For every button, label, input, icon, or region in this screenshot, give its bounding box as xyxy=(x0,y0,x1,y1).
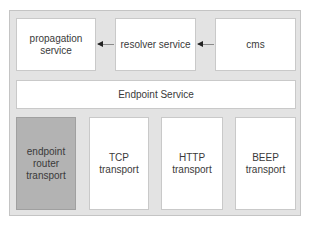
http-transport-box: HTTP transport xyxy=(161,117,223,210)
beep-transport-label: BEEP transport xyxy=(246,152,285,176)
propagation-service-box: propagation service xyxy=(16,18,96,71)
http-transport-label: HTTP transport xyxy=(172,152,211,176)
arrowhead-icon xyxy=(197,41,203,47)
arrow-resolver-to-propagation xyxy=(98,44,114,45)
resolver-service-box: resolver service xyxy=(115,18,196,71)
endpoint-router-transport-box: endpoint router transport xyxy=(16,117,76,210)
arrow-cms-to-resolver xyxy=(198,44,214,45)
arrowhead-icon xyxy=(97,41,103,47)
tcp-transport-box: TCP transport xyxy=(89,117,149,210)
endpoint-service-box: Endpoint Service xyxy=(16,80,296,109)
propagation-service-label: propagation service xyxy=(30,33,83,57)
endpoint-router-transport-label: endpoint router transport xyxy=(26,146,65,182)
resolver-service-label: resolver service xyxy=(120,39,190,51)
cms-box: cms xyxy=(215,18,296,71)
endpoint-service-label: Endpoint Service xyxy=(118,89,194,101)
cms-label: cms xyxy=(246,39,264,51)
beep-transport-box: BEEP transport xyxy=(235,117,296,210)
tcp-transport-label: TCP transport xyxy=(99,152,138,176)
